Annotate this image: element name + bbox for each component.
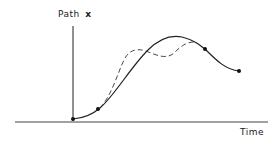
- marker-end: [237, 69, 241, 73]
- marker-start: [71, 117, 75, 121]
- marker-point-2: [96, 107, 100, 111]
- path-time-diagram: Path x Time: [0, 0, 280, 141]
- x-axis-label: Time: [239, 127, 264, 137]
- y-axis-label: Path x: [58, 9, 91, 19]
- marker-point-3: [203, 47, 207, 51]
- solid-path-curve: [73, 36, 239, 119]
- dashed-path-curve: [100, 42, 194, 108]
